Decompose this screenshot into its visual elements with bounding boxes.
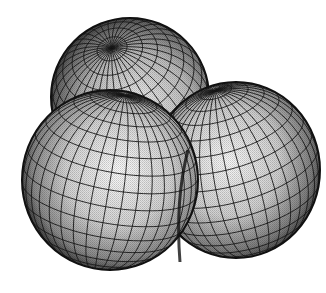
three-lobe-mesh-figure: [0, 0, 326, 293]
front-left-lobe: [22, 90, 198, 270]
